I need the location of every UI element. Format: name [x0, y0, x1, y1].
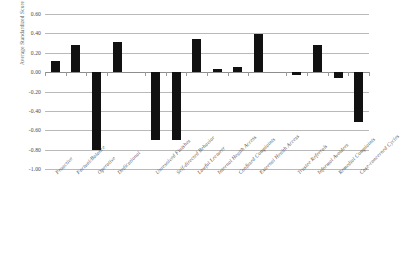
bar	[71, 45, 80, 72]
bar	[192, 39, 201, 72]
bar	[92, 72, 101, 150]
x-axis-category-labels: ProactiveFactual/BalanceOperativeDedicat…	[45, 171, 369, 257]
y-axis-tick-label: -0.80	[29, 147, 41, 153]
bar	[354, 72, 363, 121]
y-axis-tick-label: 0.20	[31, 50, 41, 56]
bar	[334, 72, 343, 78]
y-axis-tick-label: 0.60	[31, 11, 41, 17]
y-axis-tick-label: -0.60	[29, 127, 41, 133]
bar	[151, 72, 160, 140]
bar	[51, 61, 60, 73]
bar	[213, 69, 222, 72]
y-axis-title: Average Standardized Score	[19, 0, 25, 93]
bar	[113, 42, 122, 72]
y-axis-tick-label: -0.20	[29, 89, 41, 95]
bar	[254, 34, 263, 72]
x-axis-tick	[369, 72, 370, 76]
y-axis-tick-label: 0.40	[31, 30, 41, 36]
y-axis-tick-label: -1.00	[29, 166, 41, 172]
bar	[233, 67, 242, 72]
bar	[313, 45, 322, 72]
bar	[172, 72, 181, 140]
y-axis-tick-label: -0.40	[29, 108, 41, 114]
bar	[292, 72, 301, 75]
y-axis-tick-label: 0.00	[31, 69, 41, 75]
